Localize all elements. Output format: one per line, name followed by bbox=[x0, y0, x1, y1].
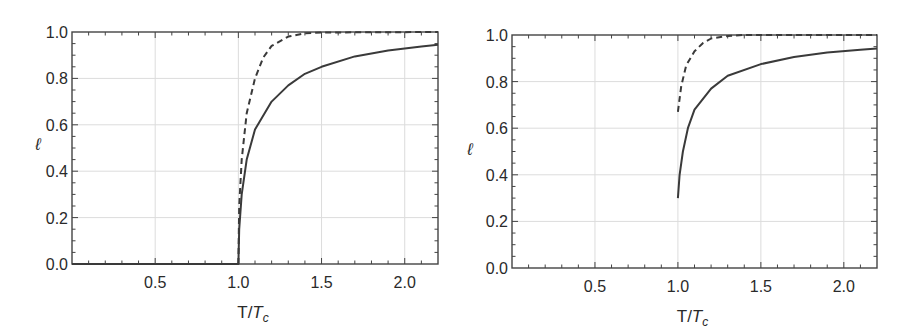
x-tick-labels: 0.51.01.52.0 bbox=[584, 278, 855, 295]
x-tick-label: 1.0 bbox=[227, 274, 249, 291]
dashed-curve bbox=[238, 32, 438, 264]
y-tick-label: 0.8 bbox=[486, 74, 508, 91]
y-tick-label: 0.0 bbox=[486, 260, 508, 277]
x-tick-label: 2.0 bbox=[394, 274, 416, 291]
y-tick-label: 0.0 bbox=[46, 256, 68, 273]
y-tick-label: 0.4 bbox=[46, 163, 68, 180]
x-tick-label: 1.5 bbox=[310, 274, 332, 291]
x-axis-label: T/Tc bbox=[677, 307, 709, 329]
y-tick-label: 0.4 bbox=[486, 167, 508, 184]
y-tick-label: 1.0 bbox=[46, 24, 68, 41]
y-tick-label: 0.6 bbox=[46, 117, 68, 134]
data-series bbox=[72, 32, 438, 264]
dashed-curve bbox=[678, 35, 877, 112]
solid-curve bbox=[678, 49, 877, 199]
x-tick-label: 2.0 bbox=[833, 278, 855, 295]
solid-curve bbox=[72, 45, 438, 264]
x-tick-label: 0.5 bbox=[584, 278, 606, 295]
grid-lines bbox=[72, 32, 438, 264]
x-tick-label: 0.5 bbox=[144, 274, 166, 291]
y-tick-label: 1.0 bbox=[486, 27, 508, 44]
left-chart-panel: 0.51.01.52.00.00.20.40.60.81.0T/Tcℓ bbox=[0, 0, 450, 336]
plot-frame bbox=[72, 32, 438, 264]
plot-frame bbox=[512, 35, 877, 268]
right-chart: 0.51.01.52.00.00.20.40.60.81.0T/Tcℓ bbox=[450, 0, 907, 336]
right-chart-panel: 0.51.01.52.00.00.20.40.60.81.0T/Tcℓ bbox=[450, 0, 907, 336]
y-tick-label: 0.2 bbox=[46, 210, 68, 227]
y-tick-labels: 0.00.20.40.60.81.0 bbox=[46, 24, 68, 273]
x-axis-label: T/Tc bbox=[237, 303, 269, 325]
data-series bbox=[678, 35, 877, 198]
left-chart: 0.51.01.52.00.00.20.40.60.81.0T/Tcℓ bbox=[0, 0, 450, 336]
x-tick-label: 1.0 bbox=[667, 278, 689, 295]
axis-ticks bbox=[72, 32, 438, 264]
y-axis-label: ℓ bbox=[34, 135, 41, 154]
y-tick-label: 0.2 bbox=[486, 213, 508, 230]
grid-lines bbox=[512, 35, 877, 268]
y-axis-label: ℓ bbox=[466, 140, 473, 159]
y-tick-label: 0.6 bbox=[486, 120, 508, 137]
y-tick-label: 0.8 bbox=[46, 70, 68, 87]
axis-ticks bbox=[512, 35, 877, 268]
y-tick-labels: 0.00.20.40.60.81.0 bbox=[486, 27, 508, 277]
x-tick-labels: 0.51.01.52.0 bbox=[144, 274, 416, 291]
x-tick-label: 1.5 bbox=[750, 278, 772, 295]
